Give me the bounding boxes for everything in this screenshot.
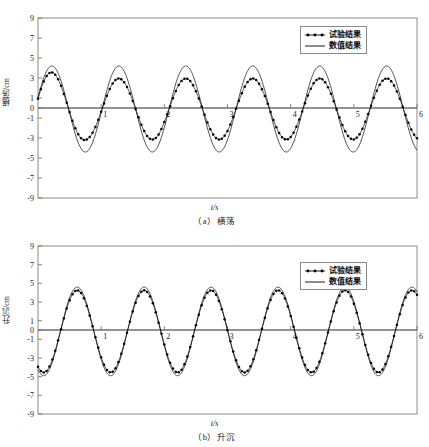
svg-text:4: 4 (293, 110, 297, 119)
legend-label-numerical-a: 数值结果 (329, 41, 361, 51)
legend-a: 试验结果 数值结果 (300, 26, 367, 54)
plot-area-b: -9-7-5-3-1013579123456 (0, 230, 429, 422)
legend-label-experimental-b: 试验结果 (329, 266, 361, 276)
svg-text:1: 1 (30, 317, 34, 326)
svg-text:-3: -3 (27, 354, 34, 363)
x-axis-label-a: t/s (0, 203, 429, 212)
svg-text:5: 5 (30, 54, 34, 63)
legend-label-numerical-b: 数值结果 (329, 277, 361, 287)
chart-svg-b: -9-7-5-3-1013579123456 (0, 230, 429, 422)
svg-text:-1: -1 (27, 335, 34, 344)
svg-text:1: 1 (30, 94, 34, 103)
svg-text:0: 0 (30, 104, 34, 113)
svg-text:-3: -3 (27, 134, 34, 143)
figure-panel-b: -9-7-5-3-1013579123456 试验结果 数值结果 t/s （b）… (0, 230, 429, 447)
svg-text:-7: -7 (27, 174, 34, 183)
svg-text:7: 7 (30, 261, 34, 270)
svg-text:3: 3 (30, 74, 34, 83)
legend-item-experimental-a: 试验结果 (304, 29, 361, 40)
svg-text:6: 6 (419, 332, 423, 341)
svg-text:-5: -5 (27, 373, 34, 382)
svg-text:1: 1 (103, 110, 107, 119)
svg-text:-7: -7 (27, 391, 34, 400)
legend-item-numerical-b: 数值结果 (304, 276, 361, 287)
svg-text:-9: -9 (27, 194, 34, 203)
legend-item-numerical-a: 数值结果 (304, 40, 361, 51)
svg-text:6: 6 (419, 110, 423, 119)
legend-item-experimental-b: 试验结果 (304, 265, 361, 276)
svg-text:9: 9 (30, 14, 34, 23)
svg-text:5: 5 (356, 110, 360, 119)
svg-text:2: 2 (166, 332, 170, 341)
caption-b: （b）升沉 (0, 430, 429, 442)
svg-text:9: 9 (30, 242, 34, 251)
svg-text:0: 0 (30, 326, 34, 335)
legend-symbol-line-icon (304, 41, 326, 51)
figure-panel-a: 横荡/cm -9-7-5-3-1013579123456 试验结果 数值结果 t… (0, 0, 429, 230)
svg-text:3: 3 (30, 298, 34, 307)
legend-symbol-line-markers-icon (304, 30, 326, 40)
legend-label-experimental-a: 试验结果 (329, 30, 361, 40)
x-axis-label-b: t/s (0, 419, 429, 428)
svg-text:1: 1 (103, 332, 107, 341)
legend-b: 试验结果 数值结果 (300, 262, 367, 290)
svg-text:5: 5 (30, 279, 34, 288)
legend-symbol-line-markers-icon (304, 266, 326, 276)
caption-a: （a）横荡 (0, 214, 429, 226)
svg-text:-9: -9 (27, 410, 34, 419)
legend-symbol-line-icon (304, 277, 326, 287)
y-axis-label-b: 升沉/cm (1, 296, 12, 324)
svg-text:-1: -1 (27, 114, 34, 123)
svg-text:7: 7 (30, 34, 34, 43)
svg-text:-5: -5 (27, 154, 34, 163)
svg-text:5: 5 (356, 332, 360, 341)
